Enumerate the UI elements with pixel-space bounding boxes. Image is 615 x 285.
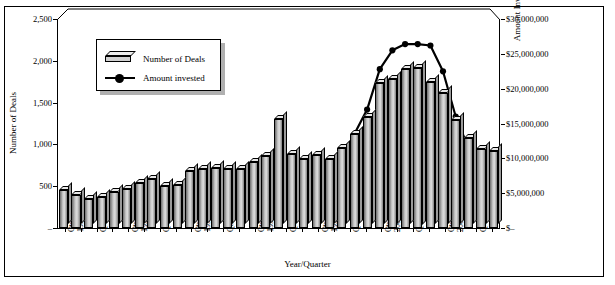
x-tick-mark — [413, 228, 414, 232]
bar-front-face — [185, 171, 194, 228]
y-tick-label-left: 1,000 — [33, 140, 52, 149]
bar — [388, 79, 397, 228]
legend-bar-swatch-front — [105, 56, 131, 62]
bar — [476, 149, 485, 228]
x-tick-mark — [429, 228, 430, 232]
bar-front-face — [59, 190, 68, 228]
bar-front-face — [249, 162, 258, 228]
x-tick-mark — [366, 228, 367, 232]
bar-side-face — [207, 161, 211, 224]
x-tick-mark — [112, 228, 113, 232]
bar-side-face — [270, 148, 274, 224]
x-tick-mark — [97, 228, 98, 232]
bar-front-face — [375, 83, 384, 228]
legend-label-amount: Amount invested — [143, 73, 205, 83]
bar-front-face — [426, 82, 435, 228]
bar — [84, 199, 93, 228]
x-tick-mark — [492, 228, 493, 232]
y-tick-label-right: $30,000,000 — [506, 15, 549, 24]
bar — [451, 120, 460, 228]
bar-side-face — [359, 126, 363, 224]
y-tick-label-left: 2,500 — [33, 15, 52, 24]
bar-side-face — [473, 130, 477, 224]
bar — [160, 186, 169, 228]
bar-side-face — [194, 163, 198, 224]
bar-side-face — [106, 189, 110, 224]
bar — [312, 155, 321, 228]
y-tick-mark-right — [501, 54, 505, 55]
bar-side-face — [346, 140, 350, 224]
bar-front-face — [274, 119, 283, 228]
x-tick-mark — [191, 228, 192, 232]
bar-side-face — [283, 111, 287, 224]
y-tick-label-left: 500 — [39, 182, 52, 191]
x-tick-mark — [239, 228, 240, 232]
bar-front-face — [401, 69, 410, 228]
bar-side-face — [68, 182, 72, 224]
bar — [413, 68, 422, 229]
x-tick-mark — [65, 228, 66, 232]
chart-legend: Number of Deals Amount invested — [96, 39, 221, 91]
bar-side-face — [308, 151, 312, 224]
line-marker — [389, 47, 395, 53]
bar-side-face — [245, 161, 249, 224]
x-tick-mark — [460, 228, 461, 232]
bar — [489, 151, 498, 228]
line-marker — [377, 66, 383, 72]
bar-front-face — [451, 120, 460, 228]
bar — [223, 169, 232, 228]
bar-side-face — [321, 147, 325, 224]
bar-front-face — [464, 138, 473, 228]
y-tick-label-right: $5,000,000 — [506, 189, 544, 198]
bar-front-face — [109, 192, 118, 228]
bar — [185, 171, 194, 228]
bar-side-face — [372, 109, 376, 224]
bar-front-face — [413, 68, 422, 229]
bar-front-face — [147, 179, 156, 228]
bar-side-face — [422, 60, 426, 225]
y-tick-mark-right — [501, 19, 505, 20]
bar — [325, 159, 334, 228]
bar — [198, 169, 207, 228]
bar-side-face — [220, 160, 224, 224]
bar-front-face — [287, 154, 296, 228]
bar-side-face — [131, 181, 135, 224]
y-tick-label-right: $10,000,000 — [506, 154, 549, 163]
x-axis-line — [57, 228, 500, 229]
bar-front-face — [350, 134, 359, 228]
bar — [426, 82, 435, 228]
x-tick-mark — [350, 228, 351, 232]
bar-front-face — [84, 199, 93, 228]
bar-side-face — [81, 187, 85, 224]
bar — [59, 190, 68, 228]
bar — [135, 183, 144, 228]
bar-front-face — [438, 93, 447, 228]
bar-front-face — [299, 159, 308, 228]
bar — [287, 154, 296, 228]
bar — [350, 134, 359, 228]
bar-front-face — [71, 195, 80, 228]
bar-front-face — [236, 169, 245, 228]
bar-side-face — [232, 161, 236, 224]
x-tick-mark — [302, 228, 303, 232]
bar-side-face — [435, 74, 439, 224]
y-tick-label-left: 2,000 — [33, 57, 52, 66]
bar-side-face — [93, 191, 97, 224]
bar-side-face — [397, 71, 401, 224]
bar-side-face — [448, 85, 452, 224]
bar-side-face — [498, 143, 502, 224]
x-tick-mark — [334, 228, 335, 232]
bar-front-face — [122, 189, 131, 228]
bar-front-face — [198, 169, 207, 228]
bar-side-face — [144, 175, 148, 224]
bar-front-face — [388, 79, 397, 228]
bar-side-face — [486, 141, 490, 224]
bar-front-face — [489, 151, 498, 228]
bar-side-face — [169, 178, 173, 224]
bar-front-face — [261, 156, 270, 228]
bar — [438, 93, 447, 228]
bar — [97, 197, 106, 228]
x-tick-mark — [223, 228, 224, 232]
bar-side-face — [460, 112, 464, 224]
line-marker — [427, 42, 433, 48]
